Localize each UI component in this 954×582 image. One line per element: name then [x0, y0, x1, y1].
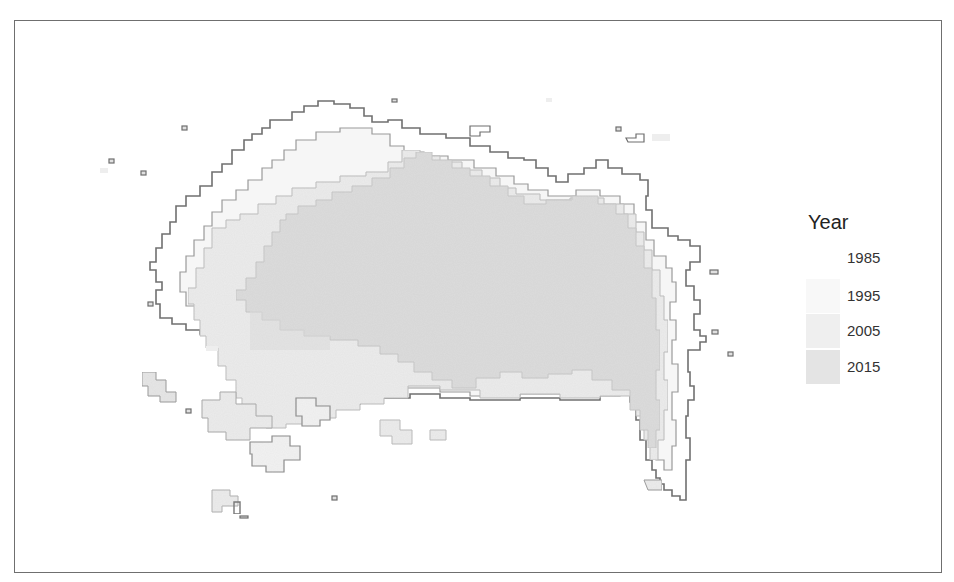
legend-item-1995: 1995 [806, 279, 916, 313]
legend-label: 2005 [847, 322, 880, 340]
legend-swatch-1985 [806, 241, 840, 275]
legend-label: 1995 [847, 287, 880, 305]
legend-item-2005: 2005 [806, 314, 916, 348]
legend-label: 1985 [847, 249, 880, 267]
legend-swatch-2005 [806, 314, 840, 348]
legend-swatch-2015 [806, 350, 840, 384]
legend-item-1985: 1985 [806, 241, 916, 275]
legend-item-2015: 2015 [806, 350, 916, 384]
legend-swatch-1995 [806, 279, 840, 313]
legend-title: Year [808, 210, 848, 234]
legend-label: 2015 [847, 358, 880, 376]
